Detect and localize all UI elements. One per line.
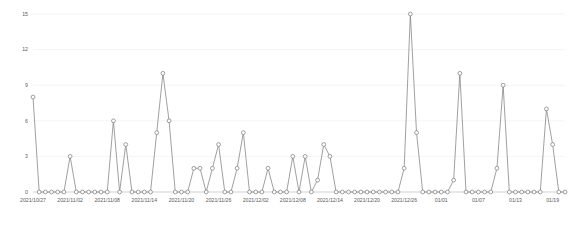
data-point-marker [136,190,140,194]
data-point-marker [439,190,443,194]
data-point-marker [142,190,146,194]
x-axis-tick-label: 01/07 [472,197,485,203]
data-point-marker [328,155,332,159]
data-point-marker [470,190,474,194]
data-point-marker [421,190,425,194]
data-point-marker [260,190,264,194]
data-point-marker [266,166,270,170]
data-point-marker [489,190,493,194]
data-point-marker [112,119,116,123]
data-point-marker [415,131,419,135]
data-point-marker [297,190,301,194]
data-point-marker [99,190,103,194]
data-point-marker [446,190,450,194]
data-point-marker [217,143,221,147]
data-point-marker [167,119,171,123]
y-axis-tick-label: 6 [0,118,28,124]
data-point-marker [211,166,215,170]
data-point-marker [155,131,159,135]
data-point-marker [229,190,233,194]
y-axis-tick-label: 0 [0,189,28,195]
data-point-marker [557,190,561,194]
x-axis-tick-label: 2021/12/26 [391,197,417,203]
data-point-marker [359,190,363,194]
data-point-marker [68,155,72,159]
data-point-marker [87,190,91,194]
data-point-marker [248,190,252,194]
x-axis-tick-label: 2021/11/26 [206,197,232,203]
data-point-marker [334,190,338,194]
data-point-marker [427,190,431,194]
data-point-marker [50,190,54,194]
x-axis-tick-label: 2021/12/02 [243,197,269,203]
y-axis-tick-label: 3 [0,153,28,159]
data-point-marker [279,190,283,194]
data-point-marker [192,166,196,170]
x-axis-tick-label: 01/19 [546,197,559,203]
data-point-marker [309,190,313,194]
data-point-marker [347,190,351,194]
data-point-marker [520,190,524,194]
data-point-marker [241,131,245,135]
data-point-marker [563,190,567,194]
series-line [33,14,565,192]
data-point-marker [316,178,320,182]
data-point-marker [31,95,35,99]
data-point-marker [433,190,437,194]
data-point-marker [507,190,511,194]
data-point-marker [532,190,536,194]
data-point-marker [56,190,60,194]
data-point-marker [514,190,518,194]
x-axis-tick-label: 2021/12/20 [354,197,380,203]
data-point-marker [81,190,85,194]
line-chart: 03691215 2021/10/272021/11/022021/11/082… [0,0,574,225]
data-point-marker [223,190,227,194]
y-axis-tick-label: 12 [0,46,28,52]
data-point-marker [254,190,258,194]
chart-plot-area [0,0,574,225]
data-point-marker [37,190,41,194]
y-axis-tick-label: 15 [0,11,28,17]
data-point-marker [408,12,412,16]
data-point-marker [390,190,394,194]
data-point-marker [173,190,177,194]
data-point-marker [526,190,530,194]
data-point-marker [551,143,555,147]
data-point-marker [538,190,542,194]
data-point-marker [477,190,481,194]
data-point-marker [105,190,109,194]
x-axis-tick-label: 2021/10/27 [20,197,46,203]
data-point-marker [74,190,78,194]
data-point-marker [124,143,128,147]
data-point-marker [235,166,239,170]
x-axis-tick-label: 2021/11/02 [57,197,83,203]
data-point-marker [161,71,165,75]
data-point-marker [340,190,344,194]
data-point-marker [353,190,357,194]
x-axis-tick-label: 2021/11/08 [94,197,120,203]
data-point-marker [186,190,190,194]
x-axis-tick-label: 2021/12/08 [280,197,306,203]
data-point-marker [501,83,505,87]
data-point-marker [365,190,369,194]
data-point-marker [495,166,499,170]
data-point-marker [198,166,202,170]
x-axis-tick-label: 2021/11/14 [132,197,158,203]
x-axis-tick-label: 01/01 [435,197,448,203]
data-point-marker [43,190,47,194]
data-point-marker [396,190,400,194]
data-point-marker [118,190,122,194]
data-point-marker [483,190,487,194]
data-point-marker [149,190,153,194]
x-axis-tick-label: 01/13 [509,197,522,203]
data-point-marker [272,190,276,194]
y-axis-tick-label: 9 [0,82,28,88]
data-point-marker [180,190,184,194]
data-point-marker [204,190,208,194]
data-point-marker [464,190,468,194]
data-point-marker [322,143,326,147]
data-point-marker [545,107,549,111]
data-point-marker [303,155,307,159]
data-point-marker [93,190,97,194]
data-point-marker [62,190,66,194]
